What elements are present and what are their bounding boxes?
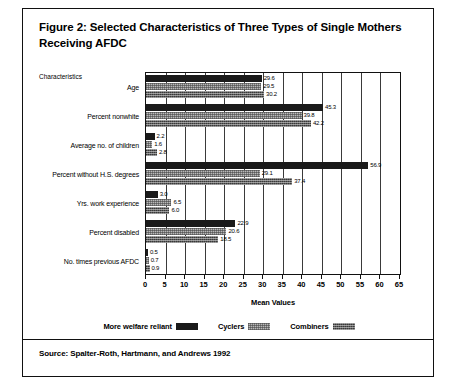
legend-item[interactable]: More welfare reliant	[103, 322, 197, 331]
bar-value-label: 2.2	[157, 132, 165, 140]
bar-value-label: 1.6	[154, 140, 162, 148]
x-tick	[360, 275, 361, 279]
x-tick	[340, 275, 341, 279]
bar-row: 56.9	[146, 162, 401, 169]
legend-item[interactable]: Combiners	[290, 322, 354, 331]
figure-frame: Figure 2: Selected Characteristics of Th…	[22, 8, 434, 377]
bar[interactable]	[146, 75, 262, 82]
bar-group: Average no. of children2.21.62.8	[39, 130, 401, 159]
bar-set: 2.21.62.8	[146, 130, 401, 162]
x-tick	[243, 275, 244, 279]
source-note: Source: Spalter-Roth, Hartmann, and Andr…	[39, 349, 230, 358]
bar[interactable]	[146, 265, 150, 272]
bar[interactable]	[146, 112, 302, 119]
bar-set: 22.920.618.5	[146, 217, 401, 249]
bar-value-label: 29.6	[264, 74, 275, 82]
x-tick-label: 20	[219, 280, 227, 289]
x-tick-label: 40	[297, 280, 305, 289]
bar-group: Age29.629.530.2	[39, 72, 401, 101]
bar-row: 6.5	[146, 199, 401, 206]
x-tick-label: 35	[278, 280, 286, 289]
source-divider	[23, 339, 433, 340]
bar[interactable]	[146, 162, 368, 169]
bar-value-label: 0.7	[151, 256, 159, 264]
x-tick	[321, 275, 322, 279]
bar-value-label: 56.9	[370, 161, 381, 169]
legend: More welfare reliantCyclersCombiners	[39, 322, 419, 331]
bar[interactable]	[146, 249, 148, 256]
bar[interactable]	[146, 133, 155, 140]
x-tick	[145, 275, 146, 279]
bar-row: 20.6	[146, 228, 401, 235]
bar-set: 56.929.137.4	[146, 159, 401, 191]
x-tick-label: 45	[317, 280, 325, 289]
x-tick	[262, 275, 263, 279]
bar-value-label: 6.0	[171, 206, 179, 214]
bar[interactable]	[146, 170, 260, 177]
bar-row: 29.5	[146, 83, 401, 90]
bar-value-label: 3.0	[160, 190, 168, 198]
bar-value-label: 30.2	[266, 90, 277, 98]
legend-swatch	[176, 323, 198, 330]
bar-value-label: 2.8	[159, 148, 167, 156]
category-label: Age	[39, 82, 139, 91]
bar-row: 3.0	[146, 191, 401, 198]
bar-set: 45.339.842.2	[146, 101, 401, 133]
x-tick-label: 5	[162, 280, 166, 289]
bar[interactable]	[146, 141, 152, 148]
bar[interactable]	[146, 220, 235, 227]
bar-value-label: 6.5	[173, 198, 181, 206]
legend-swatch	[248, 323, 270, 330]
figure-title: Figure 2: Selected Characteristics of Th…	[39, 20, 411, 51]
legend-label: Combiners	[290, 322, 328, 331]
bar[interactable]	[146, 199, 171, 206]
x-tick-label: 10	[180, 280, 188, 289]
bar-chart: Characteristics Age29.629.530.2Percent n…	[39, 63, 419, 313]
bar-row: 42.2	[146, 120, 401, 127]
x-tick	[165, 275, 166, 279]
bar-value-label: 37.4	[294, 177, 305, 185]
category-label: Yrs. work experience	[39, 198, 139, 207]
bar-value-label: 39.8	[304, 111, 315, 119]
bar-row: 45.3	[146, 104, 401, 111]
bar[interactable]	[146, 228, 226, 235]
bar-row: 18.5	[146, 236, 401, 243]
x-tick	[184, 275, 185, 279]
bar-row: 39.8	[146, 112, 401, 119]
bar-row: 2.2	[146, 133, 401, 140]
x-tick-label: 65	[395, 280, 403, 289]
bar-value-label: 18.5	[220, 235, 231, 243]
x-tick	[282, 275, 283, 279]
bar[interactable]	[146, 257, 149, 264]
bar[interactable]	[146, 191, 158, 198]
x-tick	[223, 275, 224, 279]
bar-row: 30.2	[146, 91, 401, 98]
legend-item[interactable]: Cyclers	[218, 322, 270, 331]
bar-value-label: 0.5	[150, 248, 158, 256]
x-axis: 05101520253035404550556065	[145, 275, 401, 295]
bar-row: 22.9	[146, 220, 401, 227]
bar-set: 3.06.56.0	[146, 188, 401, 220]
category-label: No. times previous AFDC	[39, 256, 139, 265]
x-tick-label: 15	[199, 280, 207, 289]
bar-row: 0.5	[146, 249, 401, 256]
bar-row: 1.6	[146, 141, 401, 148]
bar[interactable]	[146, 178, 292, 185]
bar[interactable]	[146, 149, 157, 156]
bar-set: 29.629.530.2	[146, 72, 401, 104]
bar[interactable]	[146, 83, 261, 90]
bar[interactable]	[146, 91, 264, 98]
bar[interactable]	[146, 207, 169, 214]
bar-value-label: 29.5	[263, 82, 274, 90]
bar-group: No. times previous AFDC0.50.70.9	[39, 246, 401, 275]
bar-group: Percent without H.S. degrees56.929.137.4	[39, 159, 401, 188]
bar[interactable]	[146, 120, 311, 127]
bar-value-label: 22.9	[237, 219, 248, 227]
bar[interactable]	[146, 104, 323, 111]
bar-row: 2.8	[146, 149, 401, 156]
x-tick-label: 25	[239, 280, 247, 289]
bar-row: 37.4	[146, 178, 401, 185]
x-tick-label: 0	[143, 280, 147, 289]
bar-value-label: 0.9	[152, 264, 160, 272]
bar[interactable]	[146, 236, 218, 243]
